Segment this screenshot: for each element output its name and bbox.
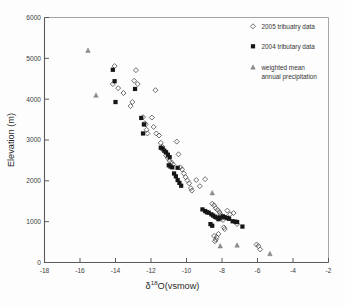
data-point	[168, 155, 172, 159]
data-point	[174, 139, 179, 144]
data-point	[151, 124, 156, 129]
series-0	[110, 64, 262, 252]
y-axis-title: Elevation (m)	[6, 113, 16, 167]
data-point	[121, 91, 126, 96]
data-point	[139, 116, 143, 120]
data-point	[176, 152, 181, 157]
data-point	[112, 79, 116, 83]
data-point	[111, 68, 115, 72]
data-point	[170, 165, 174, 169]
data-point	[203, 177, 208, 182]
y-tick-label: 4000	[26, 96, 41, 103]
data-point	[254, 242, 259, 247]
y-tick-label: 2000	[26, 177, 41, 184]
data-point	[188, 186, 193, 191]
legend-label-2: weighted mean	[261, 64, 306, 72]
data-point	[141, 131, 145, 135]
x-tick-label: -4	[290, 267, 296, 274]
x-tick-label: -12	[146, 267, 156, 274]
data-point	[149, 115, 154, 120]
data-point	[135, 82, 140, 87]
data-point	[256, 244, 261, 249]
x-tick-label: -14	[111, 267, 121, 274]
chart-figure: -18-16-14-12-10-8-6-4-201000200030004000…	[0, 0, 345, 307]
legend-marker-1	[251, 44, 255, 48]
data-point	[218, 244, 223, 248]
data-point	[210, 201, 215, 206]
x-tick-label: -16	[75, 267, 85, 274]
y-tick-label: 5000	[26, 55, 41, 62]
legend-marker-0	[251, 24, 256, 29]
axis-frame	[45, 18, 329, 263]
x-tick-label: -2	[326, 267, 332, 274]
data-point	[86, 48, 91, 52]
legend-marker-2	[251, 65, 256, 69]
y-tick-label: 0	[37, 259, 41, 266]
scatter-plot: -18-16-14-12-10-8-6-4-201000200030004000…	[0, 0, 345, 307]
x-tick-label: -6	[255, 267, 261, 274]
plot-axes: -18-16-14-12-10-8-6-4-201000200030004000…	[26, 14, 331, 274]
data-point	[153, 88, 158, 93]
axis-frame-top-right	[45, 18, 329, 263]
data-points-layer	[86, 48, 272, 256]
y-tick-label: 3000	[26, 136, 41, 143]
data-point	[133, 87, 137, 91]
data-point	[133, 68, 138, 73]
data-point	[176, 166, 180, 170]
data-point	[94, 93, 99, 97]
data-point	[194, 178, 199, 183]
legend-label-2-line2: annual precipitation	[262, 73, 318, 81]
data-point	[258, 247, 263, 252]
data-point	[142, 122, 146, 126]
y-tick-label: 6000	[26, 14, 41, 21]
data-point	[174, 174, 178, 178]
data-point	[197, 184, 202, 189]
data-point	[116, 86, 121, 91]
legend-label-0: 2005 tribuatry data	[262, 23, 316, 31]
data-point	[240, 224, 244, 228]
data-point	[132, 78, 137, 83]
data-point	[210, 190, 215, 194]
series-1	[111, 68, 245, 229]
data-point	[235, 243, 240, 247]
x-tick-label: -18	[40, 267, 50, 274]
x-axis-title: δ18O(vsmow)	[146, 279, 200, 291]
data-point	[235, 220, 239, 224]
chart-legend: 2005 tribuatry data2004 tributary datawe…	[251, 23, 318, 81]
y-tick-label: 1000	[26, 218, 41, 225]
x-tick-label: -10	[182, 267, 192, 274]
data-point	[113, 100, 117, 104]
x-tick-label: -8	[219, 267, 225, 274]
data-point	[179, 184, 183, 188]
data-point	[189, 188, 194, 193]
data-point	[268, 251, 273, 255]
data-point	[208, 222, 212, 226]
legend-label-1: 2004 tributary data	[262, 43, 316, 51]
